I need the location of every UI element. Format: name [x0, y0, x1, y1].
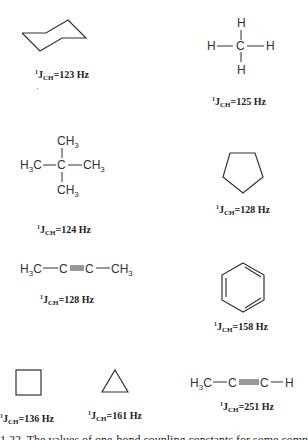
butyne-h3c: H3C	[20, 262, 42, 278]
cyclopropane-structure	[100, 368, 132, 396]
propyne-h: H	[285, 376, 294, 390]
tb-h3c-left: H3C	[20, 158, 42, 174]
tb-ch3-top: CH3	[57, 134, 79, 150]
cyclopropane-coupling-label: 1JCH=161 Hz	[88, 410, 142, 423]
figure-caption: 1.22. The values of one-bond coupling co…	[0, 431, 308, 440]
cyclohexane-structure	[18, 16, 90, 58]
methane-coupling-label: 1JCH=125 Hz	[212, 96, 266, 109]
cyclopentane-structure	[220, 150, 266, 196]
tb-ch3-bottom: CH3	[57, 183, 79, 198]
butyne-c1: C	[59, 262, 68, 276]
methane-c: C	[236, 39, 245, 53]
propyne-c1: C	[228, 376, 237, 390]
stray-dot	[37, 88, 38, 89]
2-butyne-structure: H3C C C CH3	[18, 258, 138, 278]
methane-h-left: H	[207, 39, 216, 53]
cyclopentane-coupling-label: 1JCH=128 Hz	[216, 204, 270, 217]
tb-c-center: C	[57, 158, 66, 172]
methane-h-right: H	[266, 39, 275, 53]
methane-h-bottom: H	[237, 63, 246, 77]
tert-butyl-structure: CH3 H3C C CH3 CH3	[16, 132, 116, 198]
butyne-ch3: CH3	[111, 262, 133, 278]
2-butyne-coupling-label: 1JCH=128 Hz	[40, 294, 94, 307]
cyclohexane-coupling-label: 1JCH=123 Hz	[35, 69, 89, 82]
benzene-structure	[216, 260, 270, 316]
butyne-c2: C	[85, 262, 94, 276]
cyclobutane-coupling-label: 1JCH=136 Hz	[0, 413, 54, 426]
cyclobutane-structure	[14, 368, 44, 398]
benzene-coupling-label: 1JCH=158 Hz	[214, 321, 268, 334]
propyne-c2: C	[260, 376, 269, 390]
tert-butyl-coupling-label: 1JCH=124 Hz	[37, 224, 91, 237]
propyne-structure: H3C C C H	[188, 372, 308, 392]
tb-ch3-right: CH3	[83, 158, 105, 174]
methane-h-top: H	[237, 16, 246, 30]
propyne-h3c: H3C	[190, 376, 212, 392]
propyne-coupling-label: 1JCH=251 Hz	[220, 401, 274, 414]
methane-structure: H H C H H	[205, 14, 280, 78]
